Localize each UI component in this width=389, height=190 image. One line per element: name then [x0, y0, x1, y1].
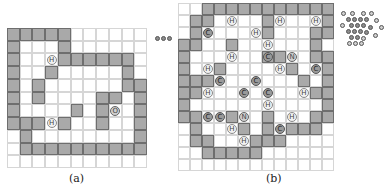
empty-cell: [109, 41, 122, 54]
cluster-molecule-icon: [339, 9, 387, 51]
empty-cell: [190, 51, 202, 63]
empty-cell: C: [214, 111, 226, 123]
wall-cell: [20, 117, 33, 130]
empty-cell: [71, 117, 84, 130]
atom-n-icon: N: [287, 52, 297, 62]
empty-cell: [322, 159, 334, 171]
empty-cell: H: [226, 15, 238, 27]
wall-cell: [190, 111, 202, 123]
wall-cell: [134, 117, 147, 130]
empty-cell: [58, 92, 71, 105]
empty-cell: [286, 135, 298, 147]
empty-cell: [262, 147, 274, 159]
empty-cell: [96, 66, 109, 79]
empty-cell: [238, 51, 250, 63]
atom-h-icon: H: [263, 100, 273, 110]
wall-cell: C: [262, 51, 274, 63]
atom-h-icon: H: [47, 55, 57, 65]
wall-cell: [226, 39, 238, 51]
wall-cell: [310, 123, 322, 135]
empty-cell: [96, 155, 109, 168]
empty-cell: [274, 39, 286, 51]
empty-cell: [109, 28, 122, 41]
atom-c-icon: C: [215, 112, 225, 122]
empty-cell: [226, 135, 238, 147]
empty-cell: C: [238, 87, 250, 99]
atom-h-icon: H: [275, 16, 285, 26]
atom-c-icon: C: [203, 28, 213, 38]
wall-cell: [7, 104, 20, 117]
wall-cell: [178, 51, 190, 63]
empty-cell: [214, 135, 226, 147]
wall-cell: [71, 143, 84, 156]
empty-cell: [214, 27, 226, 39]
wall-cell: [178, 75, 190, 87]
empty-cell: [83, 117, 96, 130]
empty-cell: [45, 41, 58, 54]
empty-cell: [298, 111, 310, 123]
empty-cell: [32, 41, 45, 54]
wall-cell: [190, 15, 202, 27]
wall-cell: [190, 123, 202, 135]
wall-cell: [322, 99, 334, 111]
empty-cell: [250, 99, 262, 111]
wall-cell: [109, 92, 122, 105]
atom-c-icon: C: [239, 88, 249, 98]
empty-cell: [250, 111, 262, 123]
empty-cell: [71, 66, 84, 79]
atom-o-icon: O: [110, 106, 120, 116]
wall-cell: [226, 3, 238, 15]
empty-cell: [58, 104, 71, 117]
empty-cell: [122, 117, 135, 130]
empty-cell: [71, 28, 84, 41]
empty-cell: [96, 41, 109, 54]
wall-cell: [250, 135, 262, 147]
empty-cell: [96, 130, 109, 143]
wall-cell: [96, 104, 109, 117]
empty-cell: C: [202, 27, 214, 39]
empty-cell: [286, 75, 298, 87]
empty-cell: [83, 130, 96, 143]
empty-cell: [214, 159, 226, 171]
empty-cell: [190, 99, 202, 111]
wall-cell: [7, 66, 20, 79]
wall-cell: [83, 53, 96, 66]
wall-cell: [238, 123, 250, 135]
wall-cell: [58, 41, 71, 54]
wall-cell: [178, 87, 190, 99]
wall-cell: [202, 15, 214, 27]
empty-cell: [109, 130, 122, 143]
empty-cell: [238, 75, 250, 87]
atom-c-icon: C: [215, 76, 225, 86]
empty-cell: H: [250, 27, 262, 39]
wall-cell: [286, 63, 298, 75]
empty-cell: [274, 111, 286, 123]
empty-cell: [274, 87, 286, 99]
empty-cell: [134, 41, 147, 54]
wall-cell: [178, 63, 190, 75]
wall-cell: [7, 28, 20, 41]
empty-cell: [20, 79, 33, 92]
empty-cell: [298, 99, 310, 111]
empty-cell: [322, 135, 334, 147]
empty-cell: C: [214, 75, 226, 87]
wall-cell: [262, 123, 274, 135]
empty-cell: H: [310, 15, 322, 27]
wall-cell: [96, 117, 109, 130]
wall-cell: [32, 28, 45, 41]
empty-cell: [109, 66, 122, 79]
empty-cell: [190, 3, 202, 15]
wall-cell: [322, 15, 334, 27]
wall-cell: [58, 28, 71, 41]
wall-cell: [178, 111, 190, 123]
empty-cell: H: [286, 111, 298, 123]
wall-cell: [134, 92, 147, 105]
empty-cell: [134, 155, 147, 168]
wall-cell: [134, 130, 147, 143]
wall-cell: [122, 53, 135, 66]
empty-cell: [310, 75, 322, 87]
empty-cell: H: [274, 63, 286, 75]
wall-cell: [7, 92, 20, 105]
wall-cell: [109, 143, 122, 156]
wall-cell: [202, 3, 214, 15]
